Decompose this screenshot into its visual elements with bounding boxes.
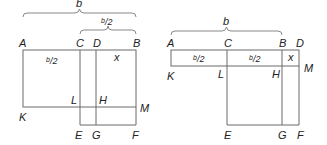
brace-b-right bbox=[171, 27, 282, 35]
point-c-right: C bbox=[224, 37, 232, 49]
label-b-half: b/2 bbox=[101, 17, 112, 27]
region-label-b-half-2: b/2 bbox=[249, 54, 260, 64]
geometry-diagram: b b/2 A C D B K L H M E G F b/2 x bbox=[0, 0, 327, 145]
point-l-right: L bbox=[218, 68, 224, 80]
brace-b-left bbox=[23, 9, 136, 17]
strip-adkm bbox=[171, 50, 299, 66]
point-h-right: H bbox=[272, 68, 280, 80]
point-k: K bbox=[19, 111, 27, 123]
point-e: E bbox=[75, 129, 83, 141]
point-m: M bbox=[140, 102, 150, 114]
point-f: F bbox=[132, 129, 140, 141]
point-c: C bbox=[76, 37, 84, 49]
brace-b-half bbox=[80, 26, 136, 34]
point-f-right: F bbox=[297, 129, 305, 141]
point-d: D bbox=[93, 37, 101, 49]
point-g: G bbox=[92, 129, 101, 141]
region-label-x-right: x bbox=[287, 51, 294, 63]
point-a: A bbox=[18, 37, 26, 49]
point-e-right: E bbox=[224, 129, 232, 141]
region-label-b-half-1: b/2 bbox=[193, 54, 204, 64]
point-g-right: G bbox=[278, 129, 287, 141]
point-h: H bbox=[99, 94, 107, 106]
point-d-right: D bbox=[296, 37, 304, 49]
point-l: L bbox=[71, 94, 77, 106]
point-b: B bbox=[133, 37, 140, 49]
left-figure: b b/2 A C D B K L H M E G F b/2 x bbox=[18, 0, 150, 141]
point-a-right: A bbox=[166, 37, 174, 49]
label-b: b bbox=[76, 0, 82, 9]
point-k-right: K bbox=[167, 70, 175, 82]
point-b-right: B bbox=[279, 37, 286, 49]
right-figure: b A C B D K L H M E G F b/2 b/2 x bbox=[166, 15, 314, 141]
point-m-right: M bbox=[304, 62, 314, 74]
region-label-x: x bbox=[113, 51, 120, 63]
region-label-b-half: b/2 bbox=[46, 56, 57, 66]
label-b-right: b bbox=[223, 15, 229, 27]
